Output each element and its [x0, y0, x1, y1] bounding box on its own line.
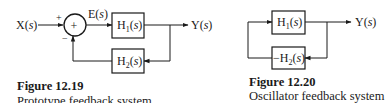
- output-label-y: Y(s): [355, 15, 376, 29]
- input-label-x: X(s): [16, 18, 37, 32]
- figure-12-20-caption-subtitle: Oscillator feedback system: [249, 89, 384, 103]
- error-label-e: E(s): [88, 7, 108, 21]
- figure-12-19-caption-title: Figure 12.19: [17, 79, 83, 94]
- forward-block-h1-label: H1(s): [277, 15, 302, 31]
- plus-sign: +: [56, 12, 62, 23]
- forward-block-h1-label: H1(s): [117, 18, 142, 34]
- feedback-block-h2-label: H2(s): [117, 54, 142, 70]
- output-label-y: Y(s): [191, 18, 212, 32]
- sum-symbol: +: [71, 19, 78, 33]
- figure-12-19-caption-subtitle: Prototype feedback system: [17, 94, 152, 103]
- feedback-path-to-h2: [144, 25, 170, 61]
- figure-12-20-caption-title: Figure 12.20: [249, 75, 315, 90]
- figure-12-19-diagram: X(s) + + − E(s) H1(s) Y(s) H2(s): [16, 7, 212, 73]
- figure-12-20-diagram: H1(s) Y(s) −H2(s): [248, 11, 376, 69]
- feedback-path-to-h2: [305, 22, 327, 58]
- feedback-path-to-sum: [73, 36, 112, 61]
- minus-sign: −: [62, 33, 68, 44]
- feedback-path-to-h1: [248, 22, 272, 58]
